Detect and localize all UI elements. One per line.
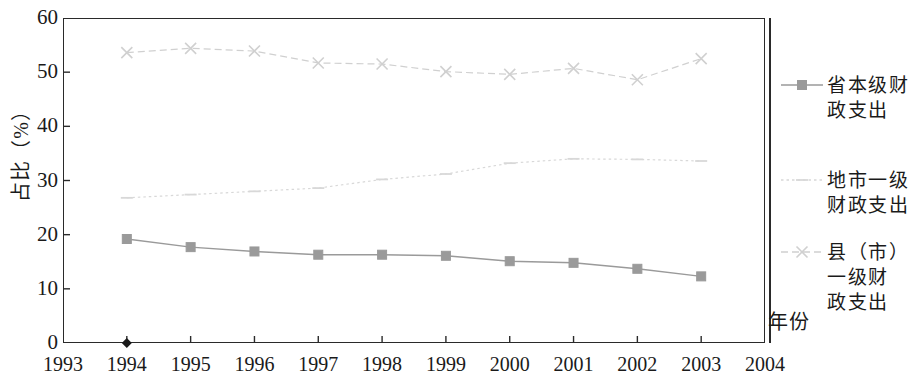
x-tick-label: 2003: [666, 352, 736, 376]
data-point-marker: [798, 81, 807, 90]
x-tick-label: 2002: [602, 352, 672, 376]
x-tick-label: 1993: [28, 352, 98, 376]
legend-swatch: [779, 240, 825, 264]
legend-entry[interactable]: 地市一级 财政支出: [779, 168, 909, 218]
legend-label: 地市一级 财政支出: [827, 168, 909, 218]
x-tick-label: 2000: [475, 352, 545, 376]
x-tick-label: 1998: [347, 352, 417, 376]
y-axis-title: 占比（%）: [10, 96, 32, 206]
x-tick-label: 1996: [219, 352, 289, 376]
x-tick-label: 1997: [283, 352, 353, 376]
x-tick-label: 1999: [411, 352, 481, 376]
x-tick-label: 1995: [156, 352, 226, 376]
x-axis-tick-labels: 1993199419951996199719981999200020012002…: [0, 347, 923, 377]
legend-sample-icon: [779, 168, 825, 192]
x-tick-label: 2001: [539, 352, 609, 376]
legend-sample-icon: [779, 73, 825, 97]
legend-swatch: [779, 168, 825, 192]
y-tick-label: 50: [6, 61, 58, 82]
legend-label: 县（市） 一级财 政支出: [827, 240, 909, 315]
legend-swatch: [779, 73, 825, 97]
plot-area-frame: [63, 18, 765, 343]
legend-divider: [769, 18, 771, 343]
legend-entry[interactable]: 省本级财 政支出: [779, 73, 909, 123]
chart-figure: 0102030405060 19931994199519961997199819…: [0, 0, 923, 377]
legend-label: 省本级财 政支出: [827, 73, 909, 123]
y-tick-label: 20: [6, 224, 58, 245]
y-tick-label: 60: [6, 7, 58, 28]
y-tick-label: 10: [6, 278, 58, 299]
legend-sample-icon: [779, 240, 825, 264]
legend-entry[interactable]: 县（市） 一级财 政支出: [779, 240, 909, 315]
x-tick-label: 2004: [730, 352, 800, 376]
x-tick-label: 1994: [92, 352, 162, 376]
